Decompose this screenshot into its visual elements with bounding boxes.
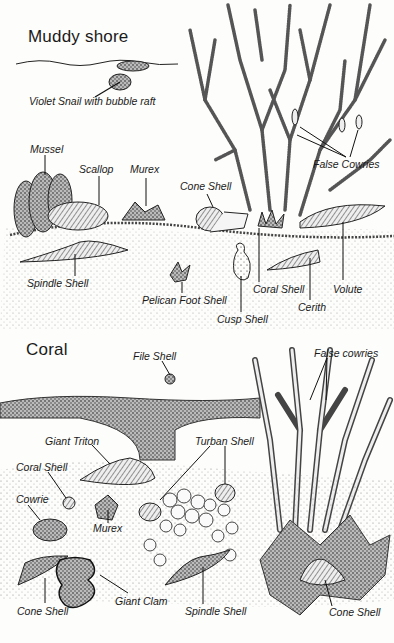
label-false-cowries: False Cowries <box>313 159 380 170</box>
label-murex-coral: Murex <box>93 523 122 534</box>
cone-shell-drawing <box>196 194 248 232</box>
turban-shell-drawing <box>139 503 161 521</box>
scallop-drawing <box>48 202 108 230</box>
label-volute: Volute <box>333 284 362 295</box>
label-file-shell: File Shell <box>133 351 176 362</box>
label-murex: Murex <box>130 164 159 175</box>
label-giant-clam: Giant Clam <box>115 596 168 607</box>
label-cone-shell-right: Cone Shell <box>329 607 380 618</box>
coral-shell-drawing-coral <box>63 497 75 509</box>
label-false-cowries-coral: False cowries <box>314 348 378 359</box>
label-violet-snail: Violet Snail with bubble raft <box>29 96 155 107</box>
coral-art <box>0 350 394 615</box>
murex-drawing <box>122 202 165 220</box>
coral-shell-drawing <box>258 210 284 228</box>
label-mussel: Mussel <box>30 144 63 155</box>
label-coral-shell: Coral Shell <box>253 284 304 295</box>
label-turban-shell: Turban Shell <box>195 436 254 447</box>
label-cone-shell: Cone Shell <box>180 181 231 192</box>
label-spindle-shell-coral: Spindle Shell <box>185 606 246 617</box>
cowrie-drawing <box>33 519 67 541</box>
label-giant-triton: Giant Triton <box>45 436 99 447</box>
turban-shell-drawing-2 <box>215 484 235 502</box>
label-coral-shell-coral: Coral Shell <box>16 462 67 473</box>
label-cusp-shell: Cusp Shell <box>217 314 268 325</box>
label-spindle-shell: Spindle Shell <box>27 278 88 289</box>
label-cowrie: Cowrie <box>16 494 49 505</box>
label-scallop: Scallop <box>79 164 113 175</box>
label-cone-shell-left: Cone Shell <box>17 606 68 617</box>
label-cerith: Cerith <box>298 302 326 313</box>
section-title-coral: Coral <box>26 340 68 360</box>
label-pelican-foot-shell: Pelican Foot Shell <box>142 295 227 306</box>
table-coral-drawing <box>0 396 260 460</box>
section-title-muddy-shore: Muddy shore <box>28 27 128 47</box>
file-shell-drawing <box>165 374 175 384</box>
giant-clam-drawing <box>56 558 94 608</box>
violet-snail-drawing <box>95 61 149 97</box>
